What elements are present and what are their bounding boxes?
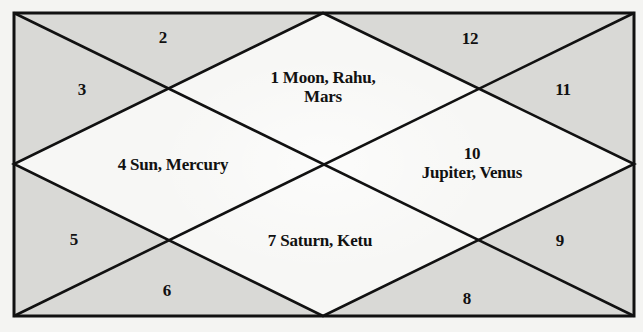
house-5: 5 bbox=[70, 230, 78, 249]
house-10: 10 Jupiter, Venus bbox=[422, 144, 523, 182]
house-7-text: 7 Saturn, Ketu bbox=[268, 231, 372, 250]
house-5-number: 5 bbox=[70, 230, 78, 249]
house-4-text: 4 Sun, Mercury bbox=[118, 155, 229, 174]
house-2-number: 2 bbox=[159, 28, 167, 47]
house-12: 12 bbox=[462, 29, 479, 48]
house-7: 7 Saturn, Ketu bbox=[268, 231, 372, 250]
house-6: 6 bbox=[163, 281, 171, 300]
house-2: 2 bbox=[159, 28, 167, 47]
house-8-number: 8 bbox=[463, 289, 471, 308]
house-11: 11 bbox=[555, 80, 571, 99]
house-1-text-line2: Mars bbox=[270, 87, 375, 106]
house-10-planets: Jupiter, Venus bbox=[422, 163, 523, 182]
house-1-text-line1: 1 Moon, Rahu, bbox=[270, 68, 375, 87]
kundli-chart bbox=[0, 0, 643, 332]
house-12-number: 12 bbox=[462, 29, 479, 48]
house-8: 8 bbox=[463, 289, 471, 308]
house-10-number: 10 bbox=[422, 144, 523, 163]
house-3: 3 bbox=[78, 80, 86, 99]
house-9: 9 bbox=[556, 231, 564, 250]
house-11-number: 11 bbox=[555, 80, 571, 99]
house-6-number: 6 bbox=[163, 281, 171, 300]
house-4: 4 Sun, Mercury bbox=[118, 155, 229, 174]
house-9-number: 9 bbox=[556, 231, 564, 250]
house-1: 1 Moon, Rahu, Mars bbox=[270, 68, 375, 106]
house-3-number: 3 bbox=[78, 80, 86, 99]
